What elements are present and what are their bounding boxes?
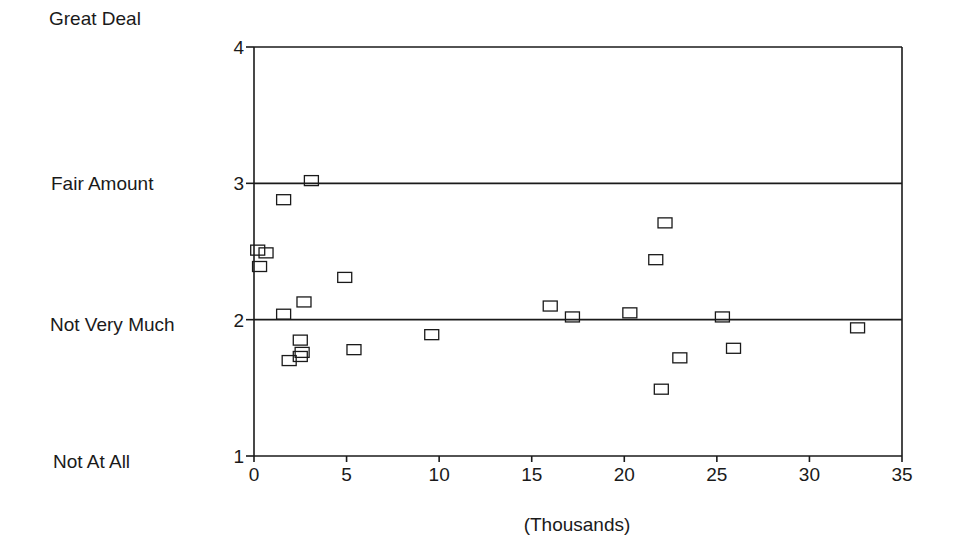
x-tick-label: 25	[706, 464, 727, 485]
data-point-marker	[649, 255, 663, 265]
data-point-marker	[347, 345, 361, 355]
x-tick-label: 20	[614, 464, 635, 485]
x-axis-label: (Thousands)	[524, 514, 631, 535]
x-tick-label: 15	[521, 464, 542, 485]
scatter-chart: 05101520253035 1234 (Thousands)	[0, 0, 958, 543]
y-category-label: Great Deal	[49, 8, 141, 30]
x-axis-ticks: 05101520253035	[249, 456, 913, 485]
data-point-marker	[277, 195, 291, 205]
x-tick-label: 30	[799, 464, 820, 485]
data-point-marker	[282, 356, 296, 366]
data-point-marker	[654, 384, 668, 394]
y-category-label: Not Very Much	[50, 314, 175, 336]
data-point-marker	[425, 330, 439, 340]
reference-lines	[254, 183, 902, 319]
x-tick-label: 10	[429, 464, 450, 485]
data-points	[251, 176, 865, 395]
data-point-marker	[658, 218, 672, 228]
y-category-label: Fair Amount	[51, 173, 153, 195]
data-point-marker	[851, 323, 865, 333]
y-tick-label: 4	[233, 37, 244, 58]
data-point-marker	[543, 301, 557, 311]
y-category-label: Not At All	[53, 451, 130, 473]
data-point-marker	[338, 272, 352, 282]
plot-frame	[254, 47, 902, 456]
x-tick-label: 5	[341, 464, 352, 485]
x-tick-label: 35	[891, 464, 912, 485]
data-point-marker	[259, 248, 273, 258]
data-point-marker	[277, 309, 291, 319]
data-point-marker	[251, 245, 265, 255]
y-tick-label: 3	[233, 173, 244, 194]
data-point-marker	[623, 308, 637, 318]
data-point-marker	[297, 297, 311, 307]
x-tick-label: 0	[249, 464, 260, 485]
y-tick-label: 2	[233, 310, 244, 331]
y-tick-label: 1	[233, 446, 244, 467]
data-point-marker	[727, 343, 741, 353]
data-point-marker	[293, 335, 307, 345]
data-point-marker	[673, 353, 687, 363]
